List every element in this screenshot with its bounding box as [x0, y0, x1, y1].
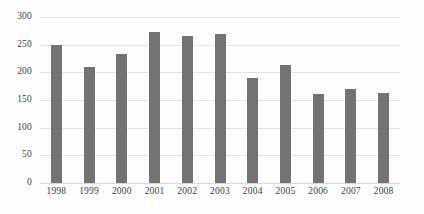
bar-2004[interactable]	[247, 78, 258, 183]
x-tick-label-2003: 2003	[210, 186, 230, 196]
y-tick-label-150: 150	[17, 95, 32, 105]
bars-group	[40, 17, 400, 183]
y-tick-label-100: 100	[17, 123, 32, 133]
x-tick-label-2000: 2000	[112, 186, 132, 196]
y-tick-label-250: 250	[17, 40, 32, 50]
x-tick-label-1999: 1999	[79, 186, 99, 196]
y-tick-label-300: 300	[17, 12, 32, 22]
x-tick-label-2004: 2004	[243, 186, 263, 196]
bar-1999[interactable]	[84, 67, 95, 183]
x-tick-label-2005: 2005	[276, 186, 296, 196]
bar-2005[interactable]	[280, 65, 291, 183]
bar-2006[interactable]	[313, 94, 324, 183]
gridline-0	[40, 183, 400, 184]
y-axis: 050100150200250300	[0, 17, 36, 183]
bar-chart-figure: 050100150200250300 199819992000200120022…	[0, 0, 424, 214]
x-tick-label-2002: 2002	[177, 186, 197, 196]
x-tick-label-2007: 2007	[341, 186, 361, 196]
x-axis: 1998199920002001200220032004200520062007…	[40, 186, 400, 202]
x-tick-label-1998: 1998	[46, 186, 66, 196]
y-tick-label-0: 0	[27, 178, 32, 188]
bar-2003[interactable]	[215, 34, 226, 183]
bar-2008[interactable]	[378, 93, 389, 183]
x-tick-label-2006: 2006	[308, 186, 328, 196]
y-tick-label-200: 200	[17, 68, 32, 78]
x-tick-label-2008: 2008	[374, 186, 394, 196]
bar-2000[interactable]	[116, 54, 127, 183]
bar-2002[interactable]	[182, 36, 193, 183]
plot-area	[40, 17, 400, 183]
bar-1998[interactable]	[51, 45, 62, 183]
bar-2001[interactable]	[149, 32, 160, 183]
bar-2007[interactable]	[345, 89, 356, 183]
x-tick-label-2001: 2001	[145, 186, 165, 196]
y-tick-label-50: 50	[22, 151, 32, 161]
